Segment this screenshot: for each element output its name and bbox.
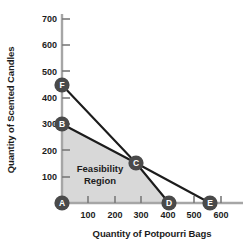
- x-tick-label-100: 100: [80, 210, 95, 220]
- y-tick-label-700: 700: [42, 14, 57, 24]
- y-tick-label-600: 600: [42, 40, 57, 50]
- x-axis-title: Quantity of Potpourri Bags: [93, 228, 212, 239]
- y-axis-title: Quantity of Scented Candles: [5, 47, 16, 174]
- x-tick-label-200: 200: [107, 210, 122, 220]
- y-tick-label-100: 100: [42, 172, 57, 182]
- point-label-B: B: [59, 119, 65, 129]
- point-label-A: A: [59, 198, 65, 208]
- point-label-E: E: [207, 198, 213, 208]
- y-tick-label-500: 500: [42, 67, 57, 77]
- point-label-C: C: [133, 158, 139, 168]
- x-tick-label-600: 600: [213, 210, 228, 220]
- feasibility-region-label-line1: Feasibility: [77, 163, 124, 174]
- point-marker-A[interactable]: A: [54, 195, 69, 210]
- point-label-F: F: [59, 80, 64, 90]
- y-tick-label-200: 200: [42, 146, 57, 156]
- point-marker-C[interactable]: C: [128, 155, 143, 170]
- point-marker-B[interactable]: B: [54, 116, 69, 131]
- y-tick-label-400: 400: [42, 93, 57, 103]
- point-marker-D[interactable]: D: [161, 195, 176, 210]
- feasibility-region-label-line2: Region: [84, 175, 116, 186]
- point-marker-F[interactable]: F: [54, 77, 69, 92]
- point-label-D: D: [166, 198, 172, 208]
- x-tick-label-400: 400: [160, 210, 175, 220]
- point-marker-E[interactable]: E: [202, 195, 217, 210]
- chart-svg: 100 200 300 400 500 600 700 100 200 300 …: [0, 0, 247, 249]
- x-tick-label-300: 300: [133, 210, 148, 220]
- x-tick-label-500: 500: [186, 210, 201, 220]
- feasibility-region-chart: 100 200 300 400 500 600 700 100 200 300 …: [0, 0, 247, 249]
